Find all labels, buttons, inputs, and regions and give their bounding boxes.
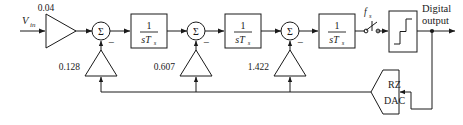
input-label: V in <box>22 15 36 29</box>
feedback-gain-2: 0.607 <box>154 50 212 92</box>
integrator-3-denominator: sT <box>329 34 340 45</box>
integrator-2: 1 sT s <box>225 14 261 48</box>
triangle-up-amplifier-icon-2 <box>180 50 212 76</box>
quantizer-block <box>389 11 417 52</box>
dac-label-line1: RZ <box>388 79 401 90</box>
feedback-gain-2-value: 0.607 <box>154 62 176 72</box>
sampler-switch: f s <box>364 7 380 33</box>
summer-2: Σ − <box>187 22 209 52</box>
feedback-gain-3: 1.422 <box>248 50 306 92</box>
feedback-gain-1: 0.128 <box>59 50 117 92</box>
summer-1-sigma: Σ <box>98 26 104 37</box>
pentagon-dac-block-icon <box>371 70 399 114</box>
output-label-line2: output <box>422 15 449 26</box>
integrator-2-numerator: 1 <box>241 20 246 31</box>
integrator-2-denominator: sT <box>235 34 246 45</box>
summer-2-minus-sign: − <box>203 36 209 48</box>
integrator-3-numerator: 1 <box>335 20 340 31</box>
integrator-1-numerator: 1 <box>147 20 152 31</box>
summer-3: Σ − <box>281 22 303 52</box>
input-gain-value: 0.04 <box>38 3 55 13</box>
feedback-gain-3-value: 1.422 <box>248 62 270 72</box>
sampler-label-subscript: s <box>369 12 372 19</box>
triangle-right-amplifier-icon <box>46 14 76 48</box>
input-gain-block: 0.04 <box>38 3 76 48</box>
diagram-canvas: V in 0.04 Σ − 1 sT s Σ − <box>0 0 463 125</box>
sampler-label-main: f <box>364 7 368 17</box>
integrator-3: 1 sT s <box>319 14 355 48</box>
triangle-up-amplifier-icon-1 <box>85 50 117 76</box>
dac-label-line2: DAC <box>384 95 405 106</box>
integrator-1-denominator: sT <box>141 34 152 45</box>
summer-3-sigma: Σ <box>287 26 293 37</box>
input-label-main: V <box>22 15 30 26</box>
digital-output-label: Digital output <box>422 3 451 33</box>
summer-1-minus-sign: − <box>108 36 114 48</box>
triangle-up-amplifier-icon-3 <box>274 50 306 76</box>
delta-sigma-modulator-diagram: V in 0.04 Σ − 1 sT s Σ − <box>0 0 463 125</box>
integrator-1: 1 sT s <box>131 14 167 48</box>
summer-3-minus-sign: − <box>297 36 303 48</box>
summer-1: Σ − <box>92 22 114 52</box>
input-label-subscript: in <box>30 21 36 29</box>
output-label-line1: Digital <box>422 3 451 14</box>
feedback-gain-1-value: 0.128 <box>59 62 81 72</box>
summer-2-sigma: Σ <box>193 26 199 37</box>
